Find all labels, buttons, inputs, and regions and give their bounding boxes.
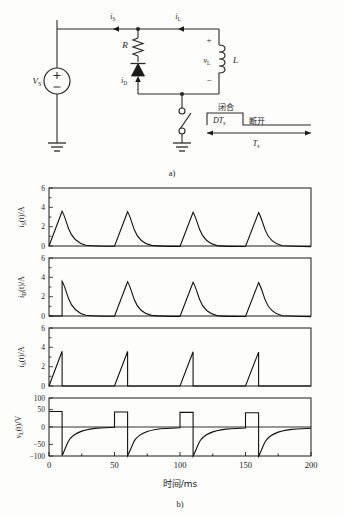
plot-panel-1: 0 2 4 6 iS(t)/A: [17, 184, 311, 251]
plot-1-ytick-0: 0: [41, 242, 45, 251]
timing-label-open: 断开: [249, 116, 265, 126]
xtick-100: 100: [174, 460, 187, 470]
plot-4-ytick-neg50: −50: [33, 440, 45, 449]
xtick-200: 200: [305, 460, 318, 470]
plot-3-ytick-2: 2: [41, 362, 45, 371]
timing-label-on-time: DTs: [212, 116, 225, 126]
plot-1-ytick-4: 4: [41, 203, 45, 212]
switch-arm[interactable]: [180, 113, 191, 129]
label-current-id: iD: [121, 76, 127, 86]
voltage-source-symbol: [44, 68, 70, 94]
plot-2-ytick-4: 4: [41, 273, 45, 282]
switch-timing-diagram: 闭合 断开 DTs Ts: [207, 102, 311, 149]
xtick-0: 0: [47, 460, 51, 470]
xtick-50: 50: [110, 460, 119, 470]
plot-3-ylabel: iS(t)/A: [17, 346, 27, 367]
label-current-il: iL: [175, 12, 181, 22]
plot-4-ytick-50: 50: [38, 405, 46, 414]
current-arrow-il: [178, 26, 184, 32]
node-dot-top-center: [136, 27, 140, 31]
label-inductor-plus: +: [206, 35, 211, 45]
waveform-plots: 0 2 4 6 iS(t)/A 0 2: [14, 184, 317, 509]
plot-4-ylabel: vL(t)/V: [14, 416, 24, 439]
plot-3-ytick-0: 0: [41, 382, 45, 391]
timing-arrow-right: [305, 131, 311, 136]
inductor-symbol: [219, 45, 225, 75]
plot-1-ytick-2: 2: [41, 222, 45, 231]
plot-2-ytick-6: 6: [41, 254, 45, 263]
plot-1-ylabel: iS(t)/A: [17, 206, 27, 227]
timing-arrow-left: [207, 131, 213, 136]
plot-1-frame: [49, 188, 311, 246]
label-inductor-voltage: vL: [204, 56, 212, 66]
label-voltage-source: VS: [33, 76, 42, 87]
switch-terminal-top[interactable]: [179, 108, 185, 114]
label-current-is: iS: [110, 12, 115, 22]
resistor-symbol: [133, 38, 143, 56]
plot-3-ytick-4: 4: [41, 343, 45, 352]
xtick-150: 150: [239, 460, 252, 470]
plot-1-trace: [49, 211, 311, 246]
plot-4-trace: [49, 412, 311, 457]
diode-symbol: [132, 64, 145, 77]
x-axis-label: 时间/ms: [163, 478, 198, 489]
plot-3-trace: [49, 351, 311, 386]
ground-symbol-left: [48, 143, 66, 151]
plot-panel-4: −100 −50 0 50 100 vL(t)/V: [14, 394, 317, 470]
figure-page: iS iL iD R L vL + − VS: [0, 0, 344, 517]
source-plus-sign: [54, 72, 61, 79]
plot-1-ytick-6: 6: [41, 184, 45, 193]
caption-panel-b: b): [176, 499, 183, 509]
plot-2-ytick-2: 2: [41, 292, 45, 301]
plot-4-ytick-100: 100: [34, 394, 46, 403]
caption-panel-a: a): [169, 168, 176, 178]
label-inductor: L: [232, 55, 238, 65]
plot-2-trace: [49, 281, 311, 316]
plot-3-ytick-6: 6: [41, 324, 45, 333]
current-arrow-id: [135, 76, 141, 82]
node-dot-switch: [180, 92, 184, 96]
ground-symbol-switch: [173, 143, 191, 151]
figure-canvas: iS iL iD R L vL + − VS: [0, 0, 344, 517]
plot-panel-2: 0 2 4 6 iD(t)/A: [17, 254, 311, 321]
timing-label-period: Ts: [253, 139, 260, 149]
plot-3-frame: [49, 328, 311, 386]
plot-2-frame: [49, 258, 311, 316]
plot-2-ylabel: iD(t)/A: [17, 276, 27, 298]
label-resistor: R: [121, 40, 128, 50]
plot-4-ytick-neg100: −100: [30, 452, 46, 461]
circuit-diagram: iS iL iD R L vL + − VS: [33, 12, 311, 178]
label-inductor-minus: −: [206, 75, 211, 85]
plot-4-ytick-0: 0: [41, 423, 45, 432]
plot-panel-3: 0 2 4 6 iS(t)/A: [17, 324, 311, 391]
timing-label-closed: 闭合: [218, 102, 234, 112]
current-arrow-is: [113, 26, 119, 32]
plot-2-ytick-0: 0: [41, 312, 45, 321]
